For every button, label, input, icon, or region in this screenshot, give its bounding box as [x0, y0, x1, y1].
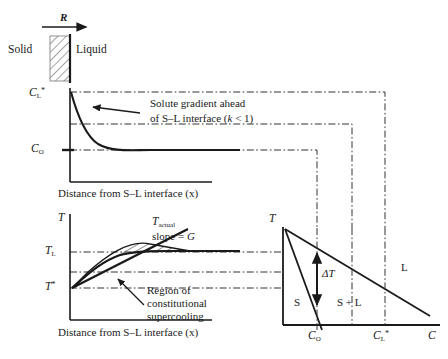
phase-region-L: L — [401, 262, 408, 273]
solute-callout-arrow — [93, 107, 140, 113]
phase-region-SL: S + L — [337, 297, 362, 308]
y-label-TL-sub: L — [51, 250, 55, 258]
figure-svg — [0, 0, 448, 359]
solute-annotation-post: < 1) — [232, 112, 253, 124]
solute-annotation-line2: of S–L interface (k < 1) — [150, 113, 253, 124]
y-label-CO-base: C — [31, 142, 39, 154]
x-tick-CL-sup: * — [385, 329, 389, 338]
slope-label: slope = G — [152, 231, 195, 242]
slope-label-G: G — [187, 230, 195, 242]
solid-label: Solid — [8, 44, 32, 56]
region-callout-arrow — [118, 279, 144, 305]
solute-annotation-line1: Solute gradient ahead — [150, 98, 245, 109]
y-label-CL-base: C — [29, 86, 37, 98]
slope-label-pre: slope = — [152, 230, 187, 242]
liquidus-temp-curve — [72, 251, 240, 288]
region-label-line3: supercooling — [147, 311, 204, 322]
x-tick-label-CL-star: CL* — [373, 330, 389, 343]
y-label-CL-star: CL* — [29, 87, 45, 100]
liquid-label: Liquid — [76, 44, 107, 56]
x-tick-CO-base: C — [308, 329, 316, 341]
x-tick-CL-base: C — [373, 329, 381, 341]
phase-diagram-group — [283, 227, 440, 330]
y-label-CL-sup: * — [41, 86, 45, 95]
growth-rate-label: R — [60, 12, 67, 23]
t-actual-label: Tactual — [152, 216, 175, 229]
solute-annotation-pre: of S–L interface ( — [150, 112, 227, 124]
phase-y-axis-label: T — [269, 213, 275, 225]
y-label-Tstar-sup: * — [51, 280, 55, 289]
y-label-TL: TL — [45, 245, 56, 258]
region-label-line2: constitutional — [147, 298, 207, 309]
x-tick-label-CO: CO — [308, 330, 321, 343]
y-label-T-star: T* — [45, 281, 55, 293]
region-label-line1: Region of — [147, 285, 191, 296]
temp-y-axis-label: T — [58, 212, 64, 224]
y-label-CO: CO — [31, 143, 44, 156]
phase-x-axis-label: C — [428, 330, 436, 342]
solute-x-axis-label: Distance from S–L interface (x) — [58, 188, 198, 199]
delta-t-label: ΔT — [322, 268, 335, 279]
solute-chart-group — [62, 88, 385, 228]
level-line-mid — [70, 124, 352, 228]
t-actual-sub: actual — [158, 221, 175, 229]
figure-root: R Solid Liquid CL* CO Solute gradient ah… — [0, 0, 448, 359]
temp-x-axis-label: Distance from S–L interface (x) — [58, 327, 198, 338]
y-label-CO-sub: O — [39, 148, 44, 156]
x-tick-CO-sub: O — [316, 335, 321, 343]
supercooling-lens — [72, 243, 190, 288]
phase-region-S: S — [294, 297, 300, 308]
